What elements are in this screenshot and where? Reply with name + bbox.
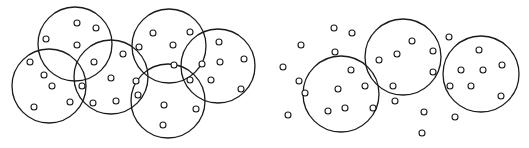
data-point [133, 78, 139, 84]
data-point [480, 67, 486, 73]
data-point [452, 114, 458, 120]
data-point [430, 48, 436, 54]
data-point [193, 106, 199, 112]
data-point [49, 83, 55, 89]
data-point [325, 108, 331, 114]
data-point [499, 62, 505, 68]
data-point [285, 112, 291, 118]
data-point [392, 98, 398, 104]
data-point [468, 83, 474, 89]
data-point [79, 83, 85, 89]
data-point [430, 69, 436, 75]
data-point [302, 90, 308, 96]
left-panel-overlapping-clusters [12, 7, 255, 138]
data-point [31, 104, 37, 110]
data-point [93, 25, 99, 31]
data-point [187, 29, 193, 35]
data-point [342, 105, 348, 111]
data-point [90, 100, 96, 106]
data-point [217, 59, 223, 65]
data-point [348, 67, 354, 73]
data-point [394, 51, 400, 57]
data-point [120, 51, 126, 57]
cluster-circle [131, 64, 205, 138]
data-point [349, 30, 355, 36]
cluster-circle [365, 19, 441, 95]
data-point [171, 62, 177, 68]
data-point [498, 93, 504, 99]
data-point [238, 86, 244, 92]
data-point [298, 42, 304, 48]
data-point [419, 130, 425, 136]
data-point [41, 72, 47, 78]
data-point [91, 59, 97, 65]
data-point [241, 56, 247, 62]
cluster-circle [303, 56, 379, 132]
data-point [136, 44, 142, 50]
diagram-svg [0, 0, 529, 148]
data-point [187, 77, 193, 83]
data-point [108, 75, 114, 81]
data-point [170, 42, 176, 48]
data-point [458, 67, 464, 73]
data-point [27, 59, 33, 65]
data-point [390, 83, 396, 89]
data-point [335, 86, 341, 92]
cluster-diagram [0, 0, 529, 148]
cluster-circle [132, 9, 206, 83]
data-point [74, 20, 80, 26]
data-point [135, 92, 141, 98]
data-point [446, 34, 452, 40]
data-point [331, 25, 337, 31]
right-panel-separated-clusters [280, 19, 519, 136]
data-point [208, 77, 214, 83]
data-point [376, 57, 382, 63]
data-point [161, 102, 167, 108]
data-point [362, 83, 368, 89]
data-point [150, 30, 156, 36]
data-point [332, 49, 338, 55]
data-point [370, 105, 376, 111]
data-point [74, 42, 80, 48]
data-point [43, 36, 49, 42]
data-point [476, 47, 482, 53]
data-point [409, 38, 415, 44]
data-point [67, 99, 73, 105]
data-point [216, 39, 222, 45]
data-point [296, 78, 302, 84]
data-point [447, 83, 453, 89]
data-point [113, 98, 119, 104]
data-point [421, 109, 427, 115]
data-point [280, 64, 286, 70]
data-point [199, 61, 205, 67]
data-point [160, 122, 166, 128]
